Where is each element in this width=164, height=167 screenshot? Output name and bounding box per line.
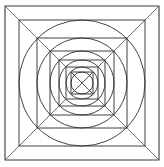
diagonal-bottom-right: [98, 99, 159, 160]
diagonal-top-right: [98, 6, 159, 67]
diagonal-bottom-left: [5, 99, 66, 160]
diagonal-top-left: [5, 6, 66, 67]
figure-canvas: [0, 0, 164, 167]
nested-squares-circles-figure: [0, 0, 164, 167]
